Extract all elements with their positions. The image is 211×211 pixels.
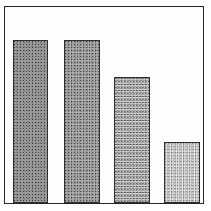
bar-2[interactable] [64, 40, 100, 203]
bar-fill-4 [165, 143, 199, 202]
bar-chart-figure [0, 0, 211, 211]
bar-fill-2 [65, 41, 99, 202]
bar-1[interactable] [13, 40, 48, 203]
bar-4[interactable] [164, 142, 200, 203]
bar-3[interactable] [114, 77, 150, 203]
bar-fill-1 [14, 41, 47, 202]
bars-layer [5, 7, 203, 203]
bar-fill-3 [115, 78, 149, 202]
plot-frame [4, 6, 204, 204]
